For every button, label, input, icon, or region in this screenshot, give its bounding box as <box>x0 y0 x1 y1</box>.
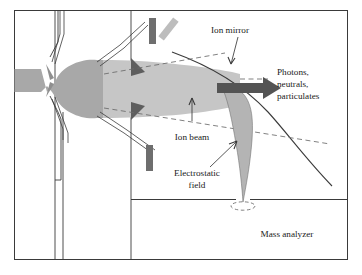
label-electrostatic-line1: Electrostatic <box>174 168 220 178</box>
label-mass-analyzer: Mass analyzer <box>261 229 314 239</box>
diagram-figure: Ion mirror Photons, neutrals, particulat… <box>0 0 362 275</box>
label-photons-line1: Photons, <box>277 67 309 77</box>
diagram-canvas: Ion mirror Photons, neutrals, particulat… <box>0 0 362 275</box>
sample-inlet-capillary <box>15 69 42 92</box>
label-photons-line2: neutrals, <box>277 79 308 89</box>
electrode-bar-upper <box>149 18 156 44</box>
label-ion-beam: Ion beam <box>175 132 209 142</box>
label-photons-line3: particulates <box>277 91 320 101</box>
label-ion-mirror: Ion mirror <box>211 25 249 35</box>
electrode-bar-lower <box>146 145 153 171</box>
label-electrostatic-line2: field <box>189 180 206 190</box>
